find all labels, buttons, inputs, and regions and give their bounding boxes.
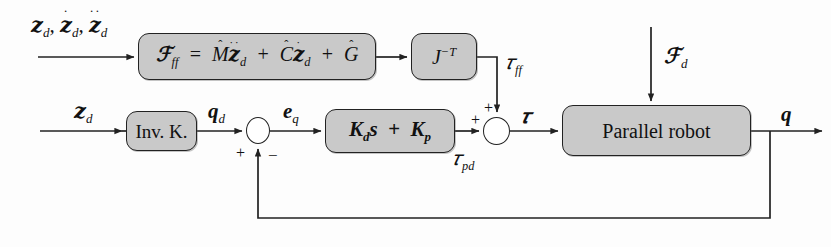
feedforward-equation: ℱff = ˆM˙˙𝒛d + ˆC˙𝒛d + ˆG: [156, 44, 359, 68]
label-desired-pose: 𝒛d: [74, 100, 92, 125]
control-block-diagram: ℱff = ˆM˙˙𝒛d + ˆC˙𝒛d + ˆG J−T Inv. K. Kd…: [0, 0, 831, 247]
jacobian-expression: J−T: [432, 46, 456, 67]
pd-controller-block[interactable]: Kds + Kp: [325, 109, 455, 153]
parallel-robot-block[interactable]: Parallel robot: [562, 105, 751, 156]
label-tau-pd: 𝜏pd: [452, 148, 474, 172]
inverse-kinematics-block[interactable]: Inv. K.: [126, 111, 197, 151]
error-summing-junction[interactable]: [246, 117, 270, 144]
torque-sum-plus-left-sign: +: [471, 112, 480, 128]
label-tau-ff: 𝜏ff: [505, 52, 522, 76]
jacobian-inverse-transpose-block[interactable]: J−T: [411, 33, 477, 80]
pd-controller-expression: Kds + Kp: [349, 119, 431, 143]
torque-sum-plus-top-sign: +: [484, 100, 493, 116]
torque-summing-junction[interactable]: [483, 117, 510, 145]
label-joint-error: eq: [283, 101, 299, 125]
error-sum-plus-sign: +: [236, 145, 245, 161]
feedforward-dynamics-block[interactable]: ℱff = ˆM˙˙𝒛d + ˆC˙𝒛d + ˆG: [138, 33, 376, 80]
inverse-kinematics-label: Inv. K.: [135, 122, 187, 141]
label-tau-total: 𝜏: [521, 106, 531, 126]
parallel-robot-label: Parallel robot: [602, 121, 710, 141]
label-desired-pose-triplet: 𝒛d, ˙𝒛d, ˙˙𝒛d: [31, 14, 107, 39]
label-joint-output: q: [781, 104, 792, 125]
label-desired-joint: qd: [208, 101, 225, 125]
label-disturbance: ℱd: [664, 45, 688, 70]
error-sum-minus-sign: −: [268, 147, 278, 164]
